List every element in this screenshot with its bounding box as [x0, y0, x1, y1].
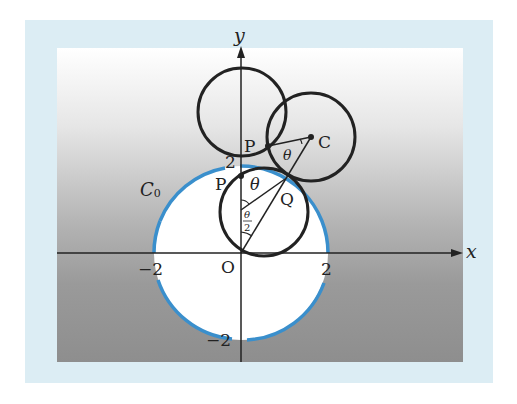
circle-top-left — [198, 68, 286, 156]
tick-x-pos: 2 — [321, 259, 332, 279]
y-axis-arrow-icon — [237, 46, 245, 58]
x-axis-label: x — [466, 240, 477, 262]
x-axis-arrow-icon — [451, 249, 463, 257]
diagram-canvas: y x O −2 2 2 −2 C0 P P C Q θ θ θ 2 — [0, 0, 517, 404]
theta-upper-label: θ — [283, 147, 292, 163]
point-C — [308, 134, 314, 140]
tick-y-pos: 2 — [225, 152, 236, 172]
point-C-label: C — [318, 132, 331, 152]
point-Q-label: Q — [280, 189, 294, 209]
half-theta-den: 2 — [244, 222, 250, 233]
point-P-lower-label: P — [215, 174, 226, 194]
point-P-lower — [238, 173, 244, 179]
point-P-upper — [265, 143, 271, 149]
theta-lower-label: θ — [250, 175, 260, 194]
angle-arc-C — [300, 139, 302, 144]
origin-label: O — [221, 257, 235, 277]
point-P-upper-label: P — [244, 136, 255, 156]
y-axis-label: y — [233, 24, 245, 46]
tick-x-neg: −2 — [138, 259, 163, 279]
half-theta-num: θ — [244, 209, 250, 220]
tick-y-neg: −2 — [206, 330, 231, 350]
c0-label: C0 — [140, 179, 161, 200]
